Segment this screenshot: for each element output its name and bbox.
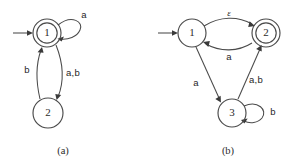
start-arrow-a1	[13, 30, 33, 36]
caption-panel-a: (a)	[57, 145, 69, 157]
start-arrow-a1-head	[27, 30, 33, 36]
state-b1[interactable]: 1	[178, 19, 206, 47]
figure-root: a 1 a,b b 2	[0, 0, 298, 168]
panel-a: a 1 a,b b 2	[13, 9, 87, 158]
transition-a1-a1-label: a	[81, 9, 87, 20]
transition-b2-b1-label: a	[226, 51, 232, 62]
panel-b: ε a a a,b 1	[158, 8, 280, 157]
transition-a1-a2: a,b	[55, 45, 80, 100]
transition-b1-b3-label: a	[193, 77, 199, 88]
transition-a1-a2-label: a,b	[66, 67, 80, 78]
state-b2[interactable]: 2	[252, 19, 280, 47]
transition-b1-b2: ε	[204, 8, 255, 27]
transition-b1-b3-path	[196, 47, 219, 98]
transition-b1-b2-label: ε	[227, 8, 231, 18]
state-b1-label: 1	[189, 26, 195, 38]
state-a2-label: 2	[45, 106, 51, 118]
transition-b2-b1: a	[203, 41, 252, 61]
transition-a1-a2-path	[56, 45, 62, 97]
state-a1-label: 1	[44, 26, 50, 38]
transition-b3-b2-label: a,b	[249, 74, 263, 85]
transition-b1-b3: a	[193, 47, 221, 103]
transition-b2-b1-head	[203, 41, 210, 47]
automata-figure: a 1 a,b b 2	[0, 0, 298, 168]
state-b2-label: 2	[263, 26, 269, 38]
transition-b3-b3-label: b	[270, 106, 276, 117]
start-arrow-b1-head	[172, 30, 178, 36]
transition-a1-a1-path	[58, 20, 81, 40]
transition-b2-b1-path	[206, 43, 252, 50]
transition-a2-a1: b	[24, 47, 43, 99]
transition-a2-a1-label: b	[24, 64, 30, 75]
transition-a2-a1-path	[37, 50, 41, 99]
transition-a1-a2-head	[55, 94, 61, 100]
transition-b3-b2: a,b	[238, 45, 263, 99]
state-a1[interactable]: 1	[33, 19, 61, 47]
caption-panel-b: (b)	[222, 145, 235, 157]
transition-b3-b3-path	[244, 104, 264, 123]
transition-b1-b2-path	[204, 18, 252, 26]
state-a2[interactable]: 2	[33, 98, 63, 128]
start-arrow-b1	[158, 30, 178, 36]
transition-a2-a1-head	[38, 47, 44, 53]
state-b3[interactable]: 3	[218, 99, 246, 127]
state-b3-label: 3	[229, 106, 235, 118]
transition-a1-a1: a	[58, 9, 88, 42]
